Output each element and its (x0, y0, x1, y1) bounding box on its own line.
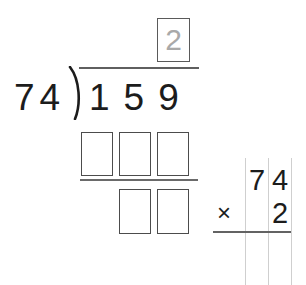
long-division-worksheet: 2 74 159 × 7 4 2 (0, 0, 306, 285)
multiplicand-digit-ones: 4 (269, 166, 291, 195)
product-box-3[interactable] (157, 132, 189, 176)
division-vinculum (79, 67, 199, 69)
remainder-box-2[interactable] (157, 189, 189, 234)
product-box-1[interactable] (81, 132, 113, 176)
multiplication-rule (213, 231, 291, 233)
quotient-hint-digit: 2 (158, 25, 189, 55)
subtraction-rule (80, 179, 198, 181)
dividend-value: 159 (89, 79, 193, 116)
multiplier-digit-ones: 2 (269, 199, 291, 228)
remainder-box-1[interactable] (119, 189, 151, 234)
product-box-2[interactable] (119, 132, 151, 176)
multiplicand-digit-tens: 7 (246, 166, 268, 195)
divisor-value: 74 (14, 79, 65, 116)
multiplication-operator: × (213, 201, 235, 225)
division-bracket-icon (68, 66, 86, 118)
quotient-box-1[interactable]: 2 (157, 18, 190, 62)
scratch-column-line-3 (291, 158, 292, 285)
